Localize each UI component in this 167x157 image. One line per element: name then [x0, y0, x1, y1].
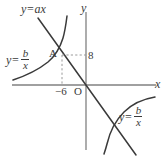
- x-axis-label: x: [155, 78, 160, 90]
- figure-canvas: [0, 0, 167, 157]
- hyperbola-lhs-right: y=: [119, 111, 132, 123]
- line-equation-label: y=ax: [21, 3, 46, 15]
- hyperbola-equation-label-right: y= b x: [119, 105, 142, 128]
- hyperbola-lhs-left: y=: [6, 54, 19, 66]
- y-axis-label: y: [81, 2, 86, 14]
- fraction-denominator-left: x: [22, 60, 29, 71]
- fraction-numerator-left: b: [22, 48, 30, 59]
- origin-label: O: [74, 86, 82, 97]
- fraction-right: b x: [134, 105, 142, 128]
- x-value-label: −6: [55, 86, 67, 97]
- math-figure: y x y=ax A 8 −6 O y= b x y= b x: [0, 0, 167, 157]
- fraction-numerator-right: b: [135, 105, 143, 116]
- point-a-label: A: [49, 48, 57, 59]
- hyperbola-equation-label-left: y= b x: [6, 48, 29, 71]
- fraction-left: b x: [21, 48, 29, 71]
- y-value-label: 8: [88, 50, 94, 61]
- line-y-equals-ax: [38, 18, 136, 155]
- fraction-denominator-right: x: [135, 117, 142, 128]
